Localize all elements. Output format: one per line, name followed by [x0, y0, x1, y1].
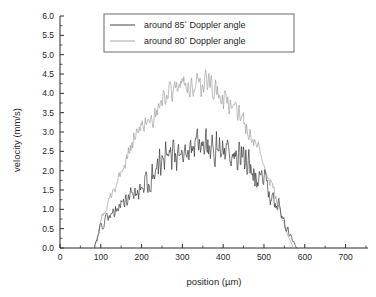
y-axis-ticks — [60, 16, 64, 248]
y-tick-label: 3.5 — [42, 108, 54, 118]
y-tick-label: 5.0 — [42, 50, 54, 60]
y-tick-label: 1.0 — [42, 204, 54, 214]
chart-figure: 0.00.51.01.52.02.53.03.54.04.55.05.56.0 … — [0, 0, 376, 297]
y-axis-tick-labels: 0.00.51.01.52.02.53.03.54.04.55.05.56.0 — [42, 11, 54, 253]
legend-80-angle: 80 — [175, 36, 185, 46]
legend-label-80-degree: around 80° Doppler angle — [144, 36, 246, 47]
x-tick-label: 200 — [134, 252, 148, 262]
y-tick-label: 4.5 — [42, 69, 54, 79]
y-tick-label: 0.5 — [42, 224, 54, 234]
x-tick-label: 600 — [298, 252, 312, 262]
y-axis-title: velocity (mm/s) — [11, 108, 22, 172]
x-tick-label: 400 — [216, 252, 230, 262]
legend-85-suffix: Doppler angle — [187, 20, 246, 30]
legend: around 85° Doppler angle around 80° Dopp… — [104, 14, 294, 52]
legend-80-prefix: around — [144, 36, 175, 46]
y-tick-label: 2.5 — [42, 146, 54, 156]
data-traces — [95, 70, 297, 248]
legend-85-prefix: around — [144, 20, 175, 30]
x-tick-label: 100 — [94, 252, 108, 262]
x-tick-label: 0 — [58, 252, 63, 262]
y-tick-label: 1.5 — [42, 185, 54, 195]
legend-80-suffix: Doppler angle — [187, 36, 246, 46]
x-tick-label: 500 — [257, 252, 271, 262]
y-tick-label: 3.0 — [42, 127, 54, 137]
y-tick-label: 2.0 — [42, 166, 54, 176]
legend-label-85-degree: around 85° Doppler angle — [144, 20, 246, 31]
x-axis-title: position (µm) — [186, 276, 241, 287]
velocity-profile-chart: 0.00.51.01.52.02.53.03.54.04.55.05.56.0 … — [0, 0, 376, 297]
legend-85-angle: 85 — [175, 20, 185, 30]
y-tick-label: 6.0 — [42, 11, 54, 21]
x-tick-label: 300 — [175, 252, 189, 262]
x-axis-ticks — [60, 244, 366, 248]
y-tick-label: 4.0 — [42, 88, 54, 98]
x-axis-tick-labels: 0100200300400500600700 — [58, 252, 353, 262]
y-tick-label: 5.5 — [42, 30, 54, 40]
trace-85-degree — [95, 128, 297, 248]
trace-80-degree — [95, 70, 294, 248]
y-tick-label: 0.0 — [42, 243, 54, 253]
x-tick-label: 700 — [338, 252, 352, 262]
